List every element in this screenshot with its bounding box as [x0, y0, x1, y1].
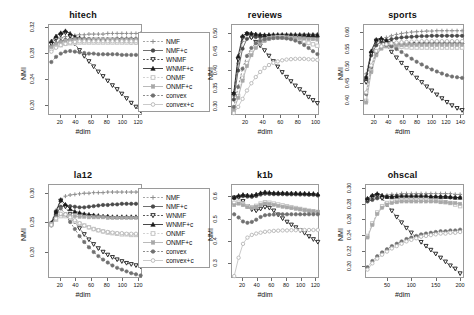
- y-tick-label: 0.32: [28, 13, 36, 41]
- x-tickmark: [60, 278, 61, 281]
- x-tickmark: [122, 115, 123, 118]
- legend-label: ONMF+c: [166, 82, 192, 91]
- x-tick-label: 100: [311, 119, 320, 125]
- legend-item-NMF: NMF: [139, 37, 209, 46]
- x-tick-label: 150: [431, 282, 440, 288]
- series-ONMF-plusc: [365, 43, 464, 104]
- x-tick-label: 60: [277, 119, 283, 125]
- x-tickmark: [460, 278, 461, 281]
- x-tickmark: [75, 115, 76, 118]
- series-WNMF-plusc: [232, 190, 320, 199]
- x-tickmark: [315, 115, 316, 118]
- x-tick-label: 120: [441, 119, 450, 125]
- legend-label: WNMF: [166, 55, 186, 64]
- y-axis-label: NMI: [337, 228, 344, 241]
- x-tick-label: 200: [456, 282, 465, 288]
- legend-item-NMF-plusc: NMF+c: [139, 46, 209, 55]
- x-tick-label: 20: [57, 282, 63, 288]
- y-tickmark: [228, 88, 231, 89]
- x-tick-label: 40: [254, 282, 260, 288]
- series-NMF: [49, 190, 142, 224]
- legend-box-la12: NMFNMF+cWNMFWNMF+cONMFONMF+cconvexconvex…: [138, 188, 210, 268]
- y-tickmark: [360, 32, 363, 33]
- x-tickmark: [446, 115, 447, 118]
- x-tickmark: [263, 115, 264, 118]
- legend-item-ONMF-plusc: ONMF+c: [139, 238, 209, 247]
- legend-marker-circle-icon: [142, 46, 164, 55]
- y-tickmark: [45, 193, 48, 194]
- series-canvas-sports: [364, 25, 465, 116]
- legend-item-WNMF-plusc: WNMF+c: [139, 220, 209, 229]
- y-tickmark: [228, 106, 231, 107]
- y-tickmark: [360, 49, 363, 50]
- y-tick-label: 0.30: [345, 174, 353, 202]
- plot-area-k1b: [231, 184, 319, 278]
- panel-title-la12: la12: [18, 170, 148, 180]
- y-tickmark: [360, 66, 363, 67]
- series-ONMF-plusc: [232, 36, 319, 112]
- legend-marker-circledot-icon: [142, 247, 164, 256]
- chart-panel-reviews: reviews0.300.350.400.450.5020406080100NM…: [205, 10, 325, 145]
- legend-item-convex-plusc: convex+c: [139, 100, 209, 109]
- legend-marker-uptri-icon: [142, 220, 164, 229]
- legend-label: ONMF+c: [166, 238, 192, 247]
- plot-area-la12: [48, 184, 142, 278]
- x-tickmark: [107, 278, 108, 281]
- y-tick-label: 0.20: [28, 238, 36, 266]
- legend-marker-circledot-icon: [142, 91, 164, 100]
- y-axis-label: NMI: [207, 228, 214, 241]
- y-tickmark: [228, 51, 231, 52]
- y-tick-label: 0.50: [211, 19, 219, 47]
- legend-label: WNMF+c: [166, 220, 193, 229]
- y-tickmark: [360, 83, 363, 84]
- plot-area-ohscal: [365, 184, 464, 278]
- legend-marker-circleop-icon: [142, 100, 164, 109]
- series-canvas-hitech: [49, 25, 143, 116]
- legend-marker-opensq-icon: [142, 229, 164, 238]
- y-tickmark: [45, 252, 48, 253]
- x-tickmark: [91, 278, 92, 281]
- legend-marker-downtri-icon: [142, 211, 164, 220]
- x-tick-label: 100: [296, 282, 305, 288]
- x-tickmark: [388, 115, 389, 118]
- x-tickmark: [242, 278, 243, 281]
- x-tick-label: 120: [311, 282, 320, 288]
- panel-title-hitech: hitech: [18, 10, 148, 20]
- x-tickmark: [298, 115, 299, 118]
- x-tick-label: 140: [456, 119, 465, 125]
- series-convex-plusc: [233, 228, 320, 278]
- y-axis-label: NMI: [207, 67, 214, 80]
- legend-marker-circle-icon: [142, 202, 164, 211]
- x-tickmark: [122, 278, 123, 281]
- legend-label: NMF: [166, 37, 180, 46]
- y-tickmark: [228, 196, 231, 197]
- legend-item-WNMF: WNMF: [139, 211, 209, 220]
- x-tick-label: 100: [118, 119, 127, 125]
- x-tickmark: [387, 278, 388, 281]
- legend-item-WNMF: WNMF: [139, 55, 209, 64]
- legend-label: WNMF: [166, 211, 186, 220]
- panel-title-reviews: reviews: [205, 10, 325, 20]
- y-tick-label: 0.24: [28, 65, 36, 93]
- x-tick-label: 50: [384, 282, 390, 288]
- legend-marker-circleop-icon: [142, 256, 164, 265]
- y-tickmark: [45, 27, 48, 28]
- legend-label: convex+c: [166, 100, 194, 109]
- legend-item-convex: convex: [139, 91, 209, 100]
- legend-marker-smallsq-icon: [142, 82, 164, 91]
- legend-marker-uptri-icon: [142, 64, 164, 73]
- x-tick-label: 120: [133, 282, 142, 288]
- y-axis-label: NMI: [337, 67, 344, 80]
- x-tick-label: 40: [72, 119, 78, 125]
- x-tickmark: [75, 278, 76, 281]
- x-axis-label: #dim: [18, 128, 148, 135]
- y-tick-label: 0.25: [28, 208, 36, 236]
- legend-label: NMF: [166, 193, 180, 202]
- x-axis-label: #dim: [335, 291, 470, 298]
- x-tick-label: 80: [414, 119, 420, 125]
- y-tickmark: [228, 219, 231, 220]
- y-tickmark: [228, 70, 231, 71]
- series-WNMF: [232, 196, 320, 244]
- x-axis-label: #dim: [205, 128, 325, 135]
- x-tick-label: 80: [295, 119, 301, 125]
